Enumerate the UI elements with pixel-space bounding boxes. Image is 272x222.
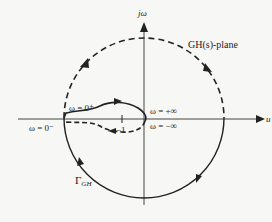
loop-arrow-upper-icon [114, 98, 122, 105]
horizontal-axis-label: u [266, 114, 271, 124]
arrow-upper-left-icon [80, 58, 89, 68]
loop-arrow-lower-icon [108, 128, 116, 134]
vertical-axis-label: jω [137, 8, 147, 18]
plane-label: GH(s)-plane [188, 39, 239, 51]
horizontal-axis-arrow-icon [256, 115, 265, 123]
omega-plus-inf-label: ω = +∞ [150, 106, 177, 116]
arrow-lower-right-icon [196, 174, 202, 183]
omega-0-plus-label: ω = 0⁺ [69, 103, 94, 113]
minus-one-label: −1 [116, 125, 126, 135]
vertical-axis-arrow-icon [140, 22, 148, 32]
omega-0-minus-label: ω = 0⁻ [29, 123, 54, 133]
inner-loop-lower-dashed [64, 121, 145, 132]
arrow-lower-left-icon [77, 157, 84, 166]
contour-subscript: GH [81, 180, 92, 188]
nyquist-diagram: jω u GH(s)-plane ω = 0⁺ ω = 0⁻ ω = +∞ ω … [0, 0, 272, 222]
omega-minus-inf-label: ω = −∞ [150, 121, 177, 131]
